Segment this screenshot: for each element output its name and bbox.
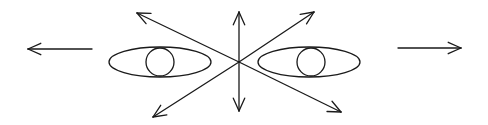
eyes — [109, 47, 360, 77]
upper-right-arrow-icon — [239, 12, 314, 62]
left-eye-icon — [109, 47, 211, 77]
lower-left-arrow-icon — [153, 62, 239, 117]
right-eye-icon — [258, 47, 360, 77]
down-arrow-icon — [233, 62, 244, 111]
side-arrows — [28, 42, 461, 54]
radial-arrows — [137, 12, 341, 117]
left-arrow-icon — [28, 43, 92, 54]
upper-left-arrow-icon — [137, 13, 239, 62]
up-arrow-icon — [233, 12, 244, 62]
lower-right-arrow-icon — [239, 62, 341, 112]
eye-movement-diagram — [0, 0, 488, 125]
right-arrow-icon — [398, 42, 461, 53]
diagram-svg — [0, 0, 488, 125]
